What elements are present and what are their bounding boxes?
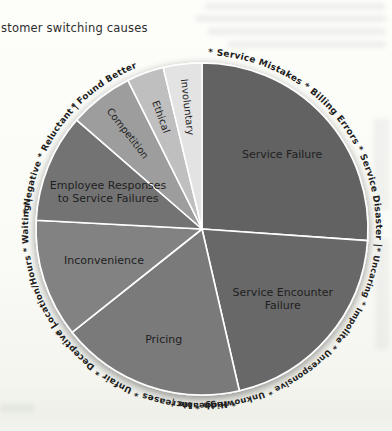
slice-label: Employee Responsesto Service Failures: [50, 179, 167, 205]
customer-switching-causes-pie-chart: * Service Mistakes * Billing Errors * Se…: [0, 0, 392, 431]
slice-label: Inconvenience: [64, 254, 144, 267]
book-page: stomer switching causes * Service Mistak…: [0, 0, 392, 431]
slice-label: Pricing: [145, 333, 182, 346]
slice-label: Service Failure: [242, 148, 323, 161]
